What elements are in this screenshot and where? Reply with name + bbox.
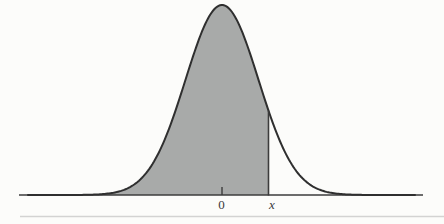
- x-tick-label: x: [268, 197, 275, 212]
- zero-tick-label: 0: [218, 197, 225, 212]
- normal-distribution-figure: 0 x: [0, 0, 444, 224]
- shaded-area-under-curve: [28, 5, 269, 195]
- normal-curve-chart: 0 x: [0, 0, 444, 224]
